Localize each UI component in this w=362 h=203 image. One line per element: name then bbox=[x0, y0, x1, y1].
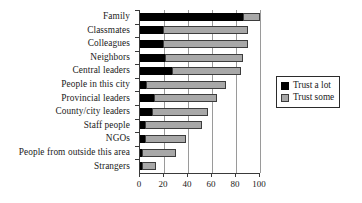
category-label-ngos: NGOs bbox=[0, 132, 134, 146]
category-label-colleagues: Colleagues bbox=[0, 37, 134, 51]
bar-segment-trust-some bbox=[163, 40, 248, 48]
stacked-bar bbox=[140, 162, 156, 170]
black-square-swatch-icon bbox=[281, 82, 289, 90]
x-tick-label: 60 bbox=[199, 180, 223, 189]
legend-label-trust-a-lot: Trust a lot bbox=[293, 81, 331, 90]
category-axis-labels: Family Classmates Colleagues Neighbors C… bbox=[0, 10, 134, 173]
legend-label-trust-some: Trust some bbox=[293, 93, 334, 102]
bar-segment-trust-some bbox=[172, 67, 240, 75]
bar-segment-trust-a-lot bbox=[140, 67, 172, 75]
category-label-family: Family bbox=[0, 10, 134, 24]
bar-segment-trust-some bbox=[146, 81, 226, 89]
category-label-strangers: Strangers bbox=[0, 159, 134, 173]
plot-area bbox=[139, 10, 260, 173]
stacked-bar bbox=[140, 54, 243, 62]
bar-segment-trust-a-lot bbox=[140, 40, 163, 48]
stacked-bar-chart: Family Classmates Colleagues Neighbors C… bbox=[0, 0, 362, 203]
value-axis-line bbox=[139, 173, 260, 174]
bar-row bbox=[140, 146, 260, 160]
category-label-people-in-this-city: People in this city bbox=[0, 78, 134, 92]
category-label-provincial-leaders: Provincial leaders bbox=[0, 91, 134, 105]
bar-segment-trust-some bbox=[145, 121, 203, 129]
bar-segment-trust-a-lot bbox=[140, 108, 152, 116]
bar-row bbox=[140, 64, 260, 78]
stacked-bar bbox=[140, 81, 226, 89]
category-label-neighbors: Neighbors bbox=[0, 51, 134, 65]
bar-segment-trust-a-lot bbox=[140, 54, 165, 62]
bar-segment-trust-a-lot bbox=[140, 94, 154, 102]
x-tick-label: 20 bbox=[151, 180, 175, 189]
bar-segment-trust-some bbox=[145, 135, 186, 143]
bar-segment-trust-some bbox=[154, 94, 216, 102]
x-tick-label: 0 bbox=[127, 180, 151, 189]
bar-segment-trust-some bbox=[142, 149, 176, 157]
bar-segment-trust-a-lot bbox=[140, 26, 163, 34]
stacked-bar bbox=[140, 149, 176, 157]
bar-row bbox=[140, 105, 260, 119]
legend-item-trust-a-lot: Trust a lot bbox=[281, 80, 334, 92]
bar-row bbox=[140, 78, 260, 92]
bar-row bbox=[140, 119, 260, 133]
category-label-county-city-leaders: County/city leaders bbox=[0, 105, 134, 119]
stacked-bar bbox=[140, 108, 208, 116]
bar-segment-trust-some bbox=[243, 13, 260, 21]
bar-segment-trust-a-lot bbox=[140, 13, 243, 21]
bar-row bbox=[140, 132, 260, 146]
stacked-bar bbox=[140, 135, 186, 143]
x-tick bbox=[259, 173, 260, 177]
stacked-bar bbox=[140, 13, 260, 21]
x-tick bbox=[187, 173, 188, 177]
bar-row bbox=[140, 51, 260, 65]
bar-segment-trust-some bbox=[142, 162, 156, 170]
bar-rows bbox=[140, 10, 260, 173]
legend-item-trust-some: Trust some bbox=[281, 92, 334, 104]
bar-row bbox=[140, 10, 260, 24]
x-tick-label: 80 bbox=[223, 180, 247, 189]
stacked-bar bbox=[140, 26, 248, 34]
bar-segment-trust-some bbox=[152, 108, 208, 116]
gridline bbox=[260, 10, 261, 173]
gray-square-swatch-icon bbox=[281, 94, 289, 102]
stacked-bar bbox=[140, 40, 248, 48]
category-label-classmates: Classmates bbox=[0, 24, 134, 38]
legend: Trust a lot Trust some bbox=[276, 76, 340, 108]
category-label-central-leaders: Central leaders bbox=[0, 64, 134, 78]
x-tick bbox=[139, 173, 140, 177]
x-tick-label: 100 bbox=[247, 180, 271, 189]
category-label-people-from-outside-this-area: People from outside this area bbox=[0, 146, 134, 160]
stacked-bar bbox=[140, 121, 202, 129]
x-tick bbox=[163, 173, 164, 177]
x-tick bbox=[235, 173, 236, 177]
bar-row bbox=[140, 24, 260, 38]
bar-row bbox=[140, 91, 260, 105]
category-label-staff-people: Staff people bbox=[0, 119, 134, 133]
bar-segment-trust-some bbox=[163, 26, 248, 34]
x-tick-label: 40 bbox=[175, 180, 199, 189]
stacked-bar bbox=[140, 94, 217, 102]
x-tick bbox=[211, 173, 212, 177]
bar-row bbox=[140, 159, 260, 173]
bar-segment-trust-some bbox=[165, 54, 243, 62]
bar-row bbox=[140, 37, 260, 51]
stacked-bar bbox=[140, 67, 241, 75]
